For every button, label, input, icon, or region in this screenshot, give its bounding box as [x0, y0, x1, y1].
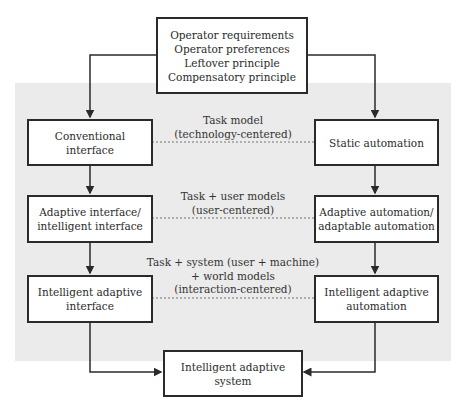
intelligent-adaptive-automation-box: Intelligent adaptive automation	[314, 275, 439, 323]
box-line: automation	[324, 299, 428, 313]
arrow-top-to-static	[307, 55, 375, 117]
box-line: Intelligent adaptive	[324, 285, 428, 299]
link-label-task-user-models: Task + user models (user-centered)	[152, 190, 314, 217]
box-line: Intelligent adaptive	[38, 285, 142, 299]
box-line: Static automation	[329, 136, 424, 150]
box-line: interface	[38, 299, 142, 313]
box-line: Compensatory principle	[168, 70, 296, 84]
box-line: Adaptive interface/	[37, 205, 143, 219]
adaptive-interface-box: Adaptive interface/ intelligent interfac…	[27, 195, 153, 243]
intelligent-adaptive-interface-box: Intelligent adaptive interface	[27, 275, 153, 323]
box-line: intelligent interface	[37, 219, 143, 233]
label-line: (user-centered)	[152, 204, 314, 218]
operator-principles-box: Operator requirements Operator preferenc…	[156, 17, 308, 94]
label-line: (technology-centered)	[152, 128, 314, 142]
box-line: Leftover principle	[168, 56, 296, 70]
link-label-task-model: Task model (technology-centered)	[152, 114, 314, 141]
conventional-interface-box: Conventional interface	[27, 119, 153, 166]
intelligent-adaptive-system-box: Intelligent adaptive system	[163, 350, 303, 397]
box-line: Intelligent adaptive	[181, 360, 285, 374]
label-line: Task + user models	[152, 190, 314, 204]
box-line: adaptable automation	[318, 219, 435, 233]
static-automation-box: Static automation	[314, 119, 439, 166]
box-line: Adaptive automation/	[318, 205, 435, 219]
box-line: Operator requirements	[168, 28, 296, 42]
box-line: Operator preferences	[168, 42, 296, 56]
label-line: (interaction-centered)	[140, 283, 326, 297]
box-line: Conventional	[55, 129, 125, 143]
label-line: + world models	[140, 270, 326, 284]
arrow-top-to-conventional	[90, 55, 156, 117]
link-label-task-system-world-models: Task + system (user + machine) + world m…	[140, 256, 326, 297]
label-line: Task + system (user + machine)	[140, 256, 326, 270]
adaptive-automation-box: Adaptive automation/ adaptable automatio…	[314, 195, 439, 243]
arrow-automation-to-system	[304, 322, 375, 372]
arrow-interface-to-system	[90, 322, 161, 372]
box-line: system	[181, 374, 285, 388]
box-line: interface	[55, 143, 125, 157]
label-line: Task model	[152, 114, 314, 128]
